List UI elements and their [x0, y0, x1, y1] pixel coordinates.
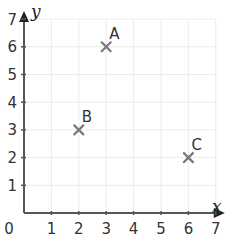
point-label: A — [109, 25, 120, 43]
x-tick-label: 5 — [156, 220, 166, 238]
y-tick-label: 6 — [7, 38, 17, 56]
data-points: ABC — [74, 25, 202, 162]
x-tick-label: 4 — [129, 220, 139, 238]
x-tick-label: 7 — [211, 220, 221, 238]
x-tick-label: 1 — [47, 220, 57, 238]
y-tick-label: 2 — [7, 149, 17, 167]
y-tick-label: 1 — [7, 177, 17, 195]
y-axis-arrow-icon — [19, 11, 29, 22]
y-tick-label: 5 — [7, 66, 17, 84]
y-axis-label: y — [30, 1, 41, 21]
coordinate-plane: 12345671234567 ABC x y 0 — [0, 0, 231, 241]
x-tick-label: 2 — [74, 220, 84, 238]
x-tick-label: 3 — [101, 220, 111, 238]
x-tick-label: 6 — [184, 220, 194, 238]
y-tick-label: 7 — [7, 11, 17, 29]
x-axis-label: x — [212, 196, 222, 216]
origin-label: 0 — [4, 220, 14, 238]
axes — [19, 11, 225, 218]
data-point: C — [184, 136, 202, 163]
grid-lines — [24, 19, 216, 213]
data-point: A — [102, 25, 121, 52]
point-label: C — [191, 136, 201, 154]
y-tick-label: 4 — [7, 94, 17, 112]
y-tick-label: 3 — [7, 121, 17, 139]
data-point: B — [74, 108, 92, 134]
point-label: B — [82, 108, 92, 126]
